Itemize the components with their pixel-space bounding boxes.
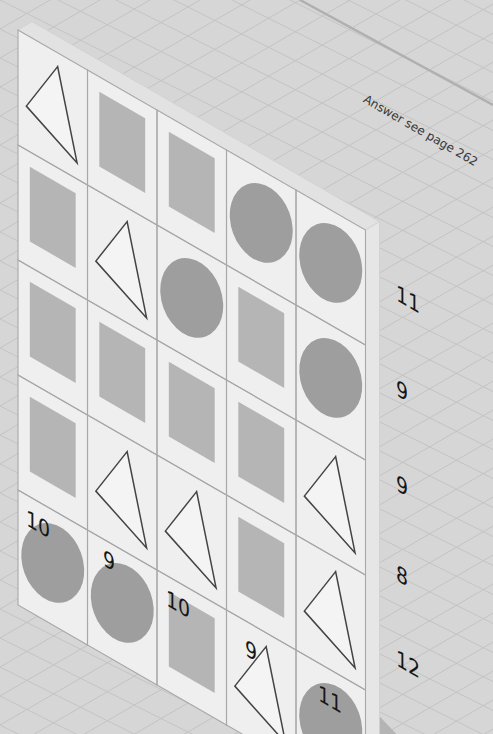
board-shadow: [374, 710, 436, 734]
board-layer: [11, 22, 436, 734]
puzzle-board: [0, 0, 493, 734]
board-side-edge: [366, 222, 380, 734]
